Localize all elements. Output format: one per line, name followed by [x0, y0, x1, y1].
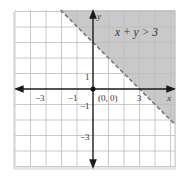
x-tick-neg3: −3: [35, 93, 45, 103]
inequality-label: x + y > 3: [114, 26, 158, 39]
y-axis-label: y: [96, 11, 101, 21]
y-tick-neg1: −1: [80, 101, 90, 111]
x-tick-pos3: 3: [137, 93, 142, 103]
y-tick-neg3: −3: [80, 132, 90, 142]
origin-label: (0, 0): [98, 93, 118, 103]
x-axis-label: x: [166, 93, 171, 103]
coordinate-graph: x + y > 3 y x (0, 0) −3 −1 3 1 −1 −3: [0, 0, 184, 177]
origin-point: [91, 87, 96, 92]
y-tick-pos1: 1: [85, 72, 90, 82]
x-tick-neg1: −1: [68, 93, 78, 103]
